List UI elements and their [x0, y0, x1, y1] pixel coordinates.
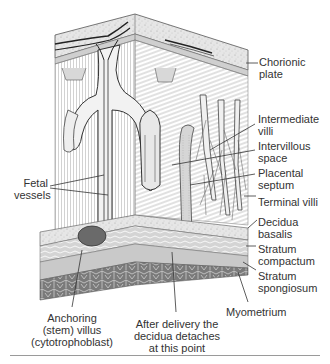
- label-line: septum: [258, 179, 303, 191]
- label-line: After delivery the: [132, 318, 222, 330]
- label-stratum-compactum: Stratum compactum: [258, 243, 315, 267]
- label-anchoring-villus: Anchoring (stem) villus (cytotrophoblast…: [30, 312, 114, 348]
- label-placental-septum: Placental septum: [258, 167, 303, 191]
- label-line: Myometrium: [226, 306, 287, 318]
- label-line: Placental: [258, 167, 303, 179]
- label-line: space: [258, 152, 311, 164]
- label-line: spongiosum: [258, 282, 317, 294]
- label-fetal-vessels: Fetal vessels: [14, 177, 48, 201]
- label-line: Terminal villi: [258, 196, 318, 208]
- label-myometrium: Myometrium: [226, 306, 287, 318]
- label-line: Chorionic: [259, 56, 305, 68]
- label-stratum-spongiosum: Stratum spongiosum: [258, 270, 317, 294]
- label-terminal-villi: Terminal villi: [258, 196, 318, 208]
- label-line: (cytotrophoblast): [30, 336, 114, 348]
- placenta-diagram: Chorionic plate Intermediate villi Inter…: [0, 0, 330, 364]
- label-line: villi: [258, 125, 319, 137]
- label-line: decidua detaches: [132, 330, 222, 342]
- bottom-rule-divider: [10, 355, 320, 356]
- label-line: Stratum: [258, 243, 315, 255]
- label-line: Intermediate: [258, 113, 319, 125]
- label-chorionic-plate: Chorionic plate: [259, 56, 305, 80]
- label-line: Intervillous: [258, 140, 311, 152]
- label-line: Stratum: [258, 270, 317, 282]
- label-intermediate-villi: Intermediate villi: [258, 113, 319, 137]
- label-decidua-detach: After delivery the decidua detaches at t…: [132, 318, 222, 354]
- label-line: at this point: [132, 342, 222, 354]
- label-line: (stem) villus: [30, 324, 114, 336]
- label-line: compactum: [258, 255, 315, 267]
- label-intervillous-space: Intervillous space: [258, 140, 311, 164]
- label-line: basalis: [258, 228, 298, 240]
- label-line: Fetal: [14, 177, 48, 189]
- label-decidua-basalis: Decidua basalis: [258, 216, 298, 240]
- label-line: Anchoring: [30, 312, 114, 324]
- label-line: vessels: [14, 189, 48, 201]
- label-line: plate: [259, 68, 305, 80]
- label-line: Decidua: [258, 216, 298, 228]
